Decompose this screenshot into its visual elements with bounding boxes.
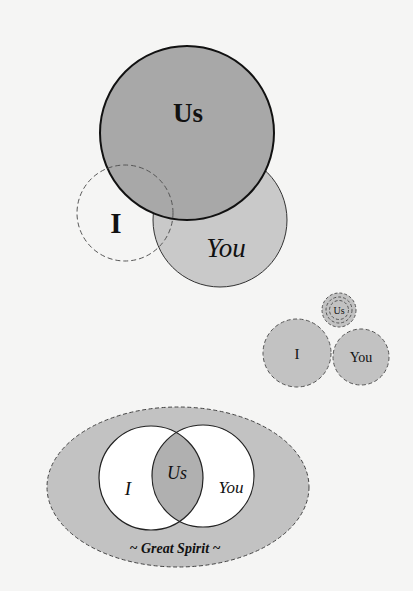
diagram-separate-small: Us I You: [263, 293, 389, 387]
us-label-venn: Us: [167, 463, 187, 483]
you-label-large: You: [206, 233, 246, 263]
relationship-diagrams: Us I You Us I You: [0, 0, 413, 591]
i-label-large: I: [110, 207, 121, 239]
diagram-canvas: Us I You Us I You: [0, 0, 413, 591]
us-label-large: Us: [173, 98, 203, 128]
diagram-great-spirit: I Us You ~ Great Spirit ~: [47, 407, 309, 567]
you-label-venn: You: [219, 478, 244, 497]
us-circle-large: [100, 46, 274, 220]
great-spirit-label: ~ Great Spirit ~: [129, 541, 220, 556]
i-label-small: I: [295, 346, 300, 362]
you-label-small: You: [350, 350, 373, 365]
diagram-us-dominant: Us I You: [77, 46, 287, 287]
us-label-small: Us: [333, 305, 344, 316]
